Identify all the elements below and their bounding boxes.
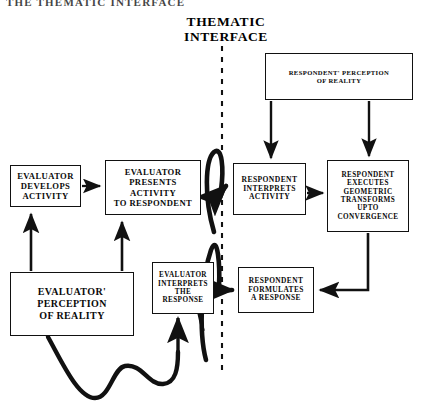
box-respondent-formulates-response[interactable]: RESPONDENT FORMULATES A RESPONSE xyxy=(238,267,314,313)
box-respondent-executes-geometric-transforms-label: RESPONDENT EXECUTES GEOMETRIC TRANSFORMS… xyxy=(334,171,401,222)
box-evaluator-perception-of-reality-label: EVALUATOR' PERCEPTION OF REALITY xyxy=(34,286,110,321)
box-respondent-perception-of-reality-label: RESPONDENT' PERCEPTION OF REALITY xyxy=(286,69,393,85)
box-evaluator-presents-activity-label: EVALUATOR PRESENTS ACTIVITY TO RESPONDEN… xyxy=(111,167,195,208)
box-evaluator-interprets-response[interactable]: EVALUATOR INTERPRETS THE RESPONSE xyxy=(152,262,214,314)
page-header-text: THE THEMATIC INTERFACE xyxy=(6,0,206,6)
box-evaluator-perception-of-reality[interactable]: EVALUATOR' PERCEPTION OF REALITY xyxy=(10,272,134,336)
thematic-interface-title: THEMATIC INTERFACE xyxy=(170,14,282,44)
box-evaluator-develops-activity[interactable]: EVALUATOR DEVELOPS ACTIVITY xyxy=(10,165,81,207)
box-respondent-interprets-activity-label: RESPONDENT INTERPRETS ACTIVITY xyxy=(239,176,301,203)
box-respondent-formulates-response-label: RESPONDENT FORMULATES A RESPONSE xyxy=(245,277,307,303)
wave-perception-to-interprets xyxy=(48,337,178,398)
thick-loop-presents-to-respondent xyxy=(207,151,226,232)
box-respondent-perception-of-reality[interactable]: RESPONDENT' PERCEPTION OF REALITY xyxy=(265,53,413,100)
diagram-canvas: THE THEMATIC INTERFACE THEMATIC INTERFAC… xyxy=(0,0,424,417)
box-evaluator-interprets-response-label: EVALUATOR INTERPRETS THE RESPONSE xyxy=(153,271,213,305)
box-respondent-interprets-activity[interactable]: RESPONDENT INTERPRETS ACTIVITY xyxy=(233,163,306,215)
box-evaluator-presents-activity[interactable]: EVALUATOR PRESENTS ACTIVITY TO RESPONDEN… xyxy=(105,160,201,215)
arrow-executes-to-formulates xyxy=(320,233,368,290)
box-evaluator-develops-activity-label: EVALUATOR DEVELOPS ACTIVITY xyxy=(14,171,77,201)
box-respondent-executes-geometric-transforms[interactable]: RESPONDENT EXECUTES GEOMETRIC TRANSFORMS… xyxy=(327,160,409,232)
